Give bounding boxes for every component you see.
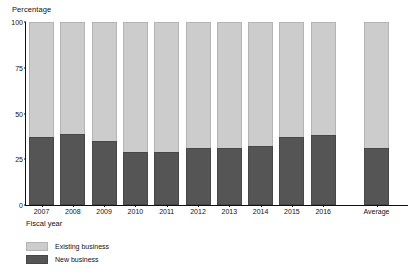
- x-axis-label: 2008: [65, 208, 81, 215]
- legend-label-existing-business: Existing business: [55, 243, 109, 250]
- bar-segment-new-business: [186, 148, 211, 205]
- y-axis-tick-mark: [24, 205, 26, 206]
- bar-group: [154, 22, 179, 205]
- x-axis-tick-mark: [135, 205, 136, 207]
- bar-group: [60, 22, 85, 205]
- bar-group: [217, 22, 242, 205]
- y-axis-tick-mark: [24, 159, 26, 160]
- x-axis-label: 2014: [253, 208, 269, 215]
- bar-segment-new-business: [217, 148, 242, 205]
- bar-group: [123, 22, 148, 205]
- y-axis-tick-mark: [24, 22, 26, 23]
- bars-container: [26, 22, 408, 205]
- y-axis-tick-mark: [24, 67, 26, 68]
- x-axis-tick-mark: [261, 205, 262, 207]
- legend-item-existing-business: Existing business: [26, 240, 109, 253]
- x-axis-tick-mark: [229, 205, 230, 207]
- x-axis-title: Fiscal year: [26, 219, 62, 228]
- x-axis-label: 2010: [128, 208, 144, 215]
- x-axis-line: [25, 205, 408, 206]
- bar-segment-new-business: [154, 152, 179, 205]
- bar-segment-new-business: [364, 148, 389, 205]
- bar-group: [248, 22, 273, 205]
- x-axis-label: 2012: [190, 208, 206, 215]
- bar-group: [186, 22, 211, 205]
- bar-group: [311, 22, 336, 205]
- chart-legend: Existing business New business: [26, 240, 109, 266]
- x-axis-label: 2009: [96, 208, 112, 215]
- x-axis-tick-mark: [323, 205, 324, 207]
- bar-group: [92, 22, 117, 205]
- y-axis-tick-mark: [24, 113, 26, 114]
- bar-segment-new-business: [311, 135, 336, 205]
- legend-swatch-existing-business: [26, 242, 48, 251]
- bar-group: [364, 22, 389, 205]
- x-axis-label: 2007: [34, 208, 50, 215]
- x-axis-tick-mark: [104, 205, 105, 207]
- y-axis-title: Percentage: [12, 5, 51, 14]
- bar-segment-new-business: [123, 152, 148, 205]
- legend-label-new-business: New business: [55, 256, 99, 263]
- x-axis-tick-mark: [292, 205, 293, 207]
- x-axis-label: 2013: [222, 208, 238, 215]
- x-axis-tick-mark: [167, 205, 168, 207]
- bar-segment-new-business: [279, 137, 304, 205]
- bar-segment-new-business: [29, 137, 54, 205]
- x-axis-tick-mark: [73, 205, 74, 207]
- x-axis-tick-mark: [42, 205, 43, 207]
- bar-segment-new-business: [248, 146, 273, 205]
- x-axis-label: 2011: [159, 208, 174, 215]
- stacked-bar-chart: Percentage 0255075100 200720082009201020…: [0, 0, 415, 277]
- bar-segment-new-business: [60, 134, 85, 205]
- x-axis-tick-mark: [377, 205, 378, 207]
- bar-segment-new-business: [92, 141, 117, 205]
- legend-swatch-new-business: [26, 255, 48, 264]
- x-axis-label: 2016: [315, 208, 331, 215]
- x-axis-label: Average: [364, 208, 390, 215]
- bar-group: [279, 22, 304, 205]
- x-axis-label: 2015: [284, 208, 300, 215]
- x-axis-tick-mark: [198, 205, 199, 207]
- legend-item-new-business: New business: [26, 253, 109, 266]
- plot-area: 0255075100: [26, 22, 408, 205]
- bar-group: [29, 22, 54, 205]
